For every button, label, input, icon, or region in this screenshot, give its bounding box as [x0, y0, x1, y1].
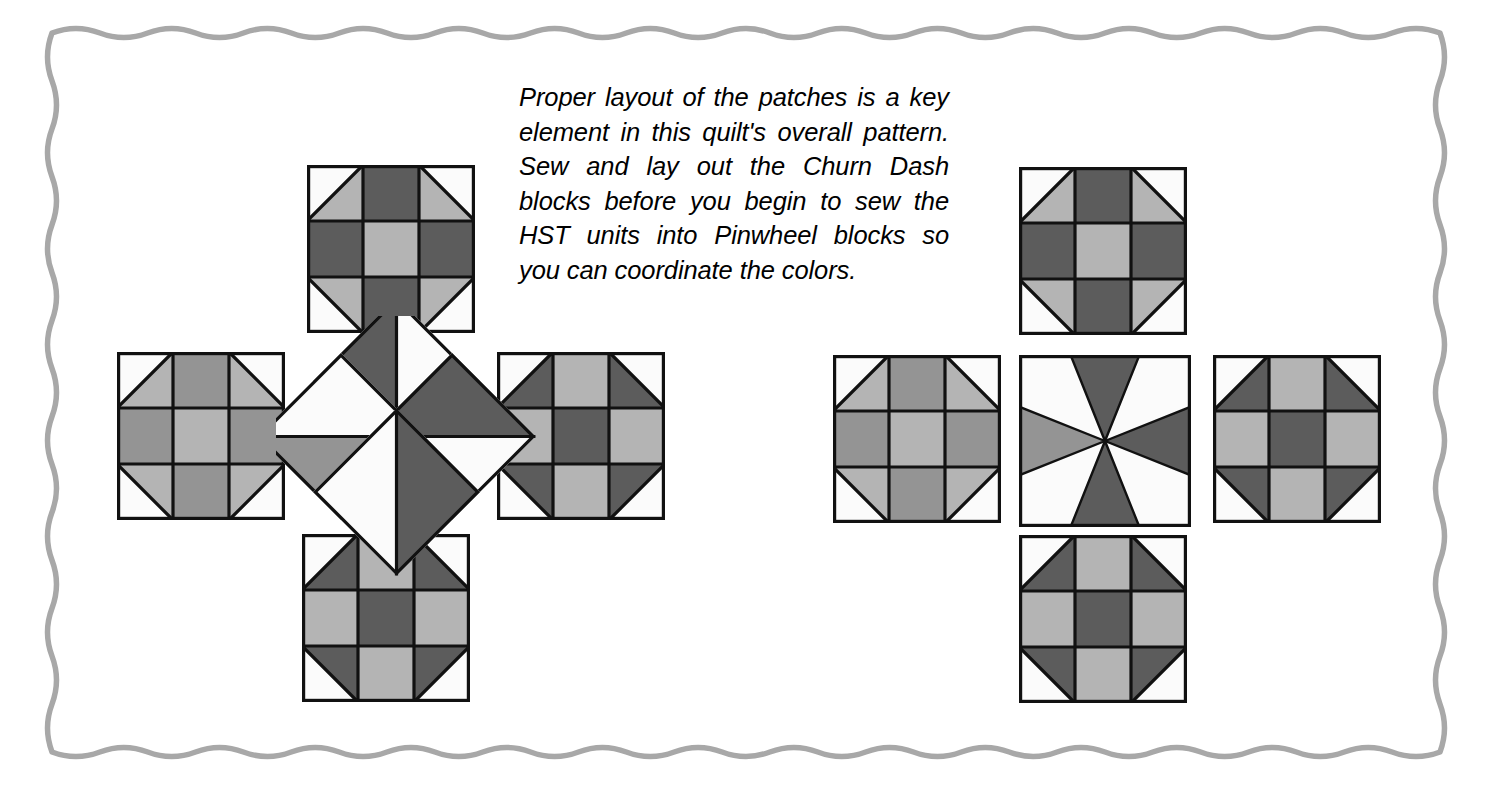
right-cluster-pinwheel-block	[1019, 355, 1191, 527]
right-cluster-churn-dash-bottom	[1019, 535, 1187, 703]
caption-line-1: Proper layout of the patches is a key	[519, 80, 949, 115]
caption-line-3: Sew and lay out the Churn Dash	[519, 149, 949, 184]
right-cluster-churn-dash-left	[833, 355, 1001, 523]
caption-line-6: you can coordinate the colors.	[519, 253, 949, 288]
left-cluster-churn-dash-top	[307, 165, 475, 333]
caption-line-5: HST units into Pinwheel blocks so	[519, 218, 949, 253]
right-cluster-churn-dash-right	[1213, 355, 1381, 523]
diagram-page: Proper layout of the patches is a key el…	[0, 0, 1487, 790]
caption-line-2: element in this quilt's overall pattern.	[519, 115, 949, 150]
left-cluster-churn-dash-left	[117, 352, 285, 520]
right-cluster-churn-dash-top	[1019, 167, 1187, 335]
caption-text: Proper layout of the patches is a key el…	[519, 80, 949, 287]
caption-line-4: blocks before you begin to sew the	[519, 184, 949, 219]
left-cluster-hst-units-center	[276, 316, 566, 606]
